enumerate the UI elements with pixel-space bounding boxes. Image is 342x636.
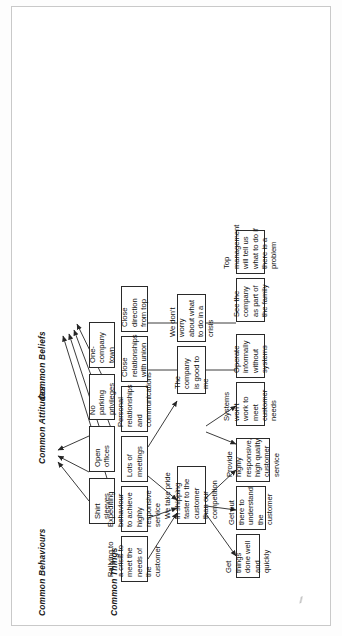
node-open-offices[interactable]: Open offices (89, 426, 115, 472)
column-header-behaviours: Common Behaviours (37, 528, 47, 616)
node-we-take-pride[interactable]: We take pride in shipping faster to the … (177, 466, 206, 524)
rotated-diagram-canvas: Common Things Common Behaviours Common A… (17, 14, 325, 622)
node-operate-informally[interactable]: Operate informally without systems (236, 334, 265, 378)
node-get-things-done-well[interactable]: Get things done well and quickly (236, 534, 260, 578)
node-expediting-behaviour[interactable]: Expediting behaviour to achieve highly r… (121, 486, 148, 532)
node-no-parking-privileges[interactable]: No parking privileges (89, 374, 115, 420)
node-lots-of-meetings[interactable]: Lots of meetings (121, 436, 148, 482)
node-rallying-to-a-crisis[interactable]: Rallying to a crisis to meet the needs o… (121, 536, 148, 582)
diagram-canvas: Common Things Common Behaviours Common A… (17, 14, 325, 622)
scanned-page: Common Things Common Behaviours Common A… (0, 0, 342, 636)
column-header-beliefs: Common Beliefs (37, 331, 47, 400)
node-see-company-as-family[interactable]: See the company as part of the family (236, 278, 265, 322)
link-t2-b4 (58, 456, 89, 472)
node-get-out-there[interactable]: Get out there to understand the customer (236, 486, 266, 530)
node-close-relationships-with-union[interactable]: Close relationships with union (121, 336, 148, 382)
node-provide-highly-responsive[interactable]: Provide highly responsive, high quality … (236, 438, 270, 482)
node-personal-relationships[interactable]: Personal relationships and communication… (121, 386, 148, 432)
node-we-dont-worry[interactable]: We don't worry about what to do in a cri… (177, 294, 206, 342)
link-t3-b4 (58, 436, 89, 450)
node-systems-wont-work[interactable]: Systems won't work to meet customer need… (236, 382, 265, 426)
link-t1-b4 (58, 462, 89, 501)
node-top-management-will-tell-us[interactable]: Top management will tell us what to do i… (236, 230, 265, 274)
node-close-direction-from-top[interactable]: Close direction from top (121, 286, 148, 332)
node-one-company-town[interactable]: One-company town (89, 322, 115, 368)
node-company-is-good-to-me[interactable]: The company is good to me (177, 346, 206, 394)
